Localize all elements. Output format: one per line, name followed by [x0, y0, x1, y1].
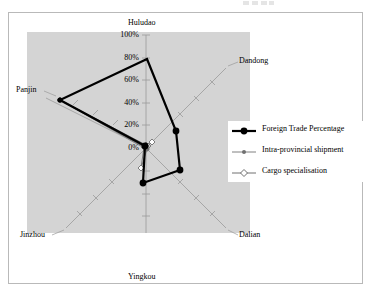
legend-marker-intra-provincial-shipment — [228, 142, 260, 162]
tick-label-20: 20% — [103, 120, 139, 129]
tick-label-0: 0% — [103, 143, 139, 152]
legend-item-foreign-trade-percentage: Foreign Trade Percentage — [228, 121, 363, 141]
tick-label-60: 60% — [103, 75, 139, 84]
legend-item-intra-provincial-shipment: Intra-provincial shipment — [228, 142, 363, 162]
legend-marker-foreign-trade-percentage — [228, 121, 260, 141]
axis-label-jinzhou: Jinzhou — [20, 230, 45, 239]
axis-label-huludao: Huludao — [128, 18, 156, 27]
tick-label-80: 80% — [103, 53, 139, 62]
figure-root: 100% 80% 60% 40% 20% 0% Huludao Dandong … — [0, 0, 375, 301]
legend-label-intra-provincial-shipment: Intra-provincial shipment — [262, 145, 344, 155]
tick-label-40: 40% — [103, 98, 139, 107]
axis-label-yingkou: Yingkou — [128, 272, 156, 281]
axis-label-dandong: Dandong — [239, 56, 268, 65]
axis-label-dalian: Dalian — [239, 230, 260, 239]
legend-label-foreign-trade-percentage: Foreign Trade Percentage — [262, 124, 344, 134]
legend-marker-cargo-specialisation — [228, 163, 260, 183]
legend-item-cargo-specialisation: Cargo specialisation — [228, 163, 363, 183]
legend-label-cargo-specialisation: Cargo specialisation — [262, 166, 327, 176]
tick-label-100: 100% — [103, 30, 139, 39]
axis-label-panjin: Panjin — [16, 85, 36, 94]
chart-legend: Foreign Trade Percentage Intra-provincia… — [228, 121, 363, 182]
